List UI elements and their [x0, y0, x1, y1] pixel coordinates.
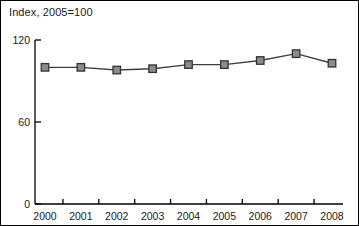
data-point-marker: [221, 61, 229, 69]
data-point-marker: [113, 66, 121, 74]
data-point-marker: [149, 65, 157, 73]
chart-figure: Index, 2005=100 060120 20002001200220032…: [0, 0, 359, 226]
line-chart-plot: 060120 200020012002200320042005200620072…: [1, 1, 359, 226]
x-tick-label: 2006: [249, 210, 273, 222]
x-tick-label: 2002: [105, 210, 129, 222]
y-tick-label: 120: [12, 34, 30, 46]
data-point-marker: [328, 59, 336, 67]
data-point-marker: [77, 64, 85, 71]
data-point-marker: [185, 61, 193, 69]
x-tick-label: 2000: [33, 210, 57, 222]
x-tick-label: 2007: [284, 210, 308, 222]
x-tick-label: 2005: [213, 210, 237, 222]
x-tick-label: 2001: [69, 210, 93, 222]
data-point-marker: [292, 50, 300, 58]
data-series-index: [41, 50, 336, 74]
data-point-marker: [41, 64, 49, 71]
x-tick-label: 2003: [141, 210, 165, 222]
x-axis: 200020012002200320042005200620072008: [33, 199, 344, 222]
x-tick-label: 2008: [320, 210, 344, 222]
y-tick-label: 60: [18, 116, 30, 128]
y-tick-label: 0: [24, 198, 30, 210]
x-tick-label: 2004: [177, 210, 201, 222]
y-axis: 060120: [12, 34, 41, 210]
data-point-marker: [257, 57, 265, 65]
